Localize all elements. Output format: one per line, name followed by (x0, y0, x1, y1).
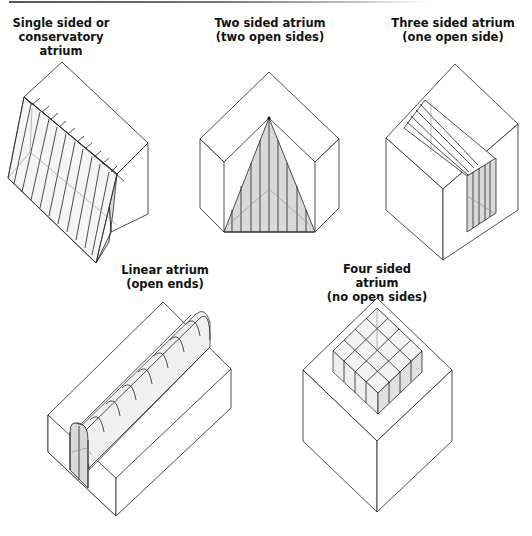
diagram-three-sided (386, 64, 518, 260)
diagram-four-sided (303, 298, 452, 512)
diagram-linear (48, 302, 231, 516)
diagram-canvas (0, 0, 532, 536)
diagram-two-sided (200, 72, 339, 232)
diagram-single-sided (8, 62, 148, 263)
